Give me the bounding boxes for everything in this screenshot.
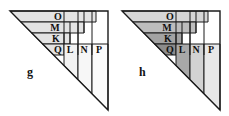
cell-label-l-g: L [67, 44, 74, 55]
cell-label-l-h: L [179, 44, 186, 55]
cell-label-p-g: P [96, 44, 102, 55]
cell-label-p-h: P [208, 44, 214, 55]
cell-label-q-h: Q [166, 44, 174, 55]
cell-label-k-g: K [52, 33, 60, 44]
panel-label-h: h [139, 66, 146, 78]
panel-h: OMKQLNP h [112, 0, 226, 116]
cell-label-o-h: O [166, 11, 174, 22]
panel-h-drawing: OMKQLNP [112, 0, 226, 116]
cell-label-m-h: M [162, 22, 172, 33]
band-o-g [10, 11, 96, 22]
panel-g: OMKQLNP g [0, 0, 114, 116]
cell-label-q-g: Q [54, 44, 62, 55]
figure-root: OMKQLNP g OMKQLNP h [0, 0, 229, 116]
cell-label-m-g: M [50, 22, 60, 33]
panel-label-g: g [27, 66, 33, 78]
band-o-h [122, 11, 208, 22]
cell-label-n-g: N [80, 44, 88, 55]
cell-label-k-h: K [164, 33, 172, 44]
panel-g-drawing: OMKQLNP [0, 0, 114, 116]
cell-label-n-h: N [192, 44, 200, 55]
cell-label-o-g: O [54, 11, 62, 22]
